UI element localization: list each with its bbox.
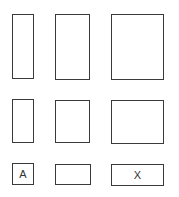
rect-label-a: A	[19, 169, 26, 180]
rect-row3-col3-x: X	[111, 164, 164, 186]
rect-row2-col1	[12, 99, 34, 143]
rect-row1-col2	[55, 14, 90, 80]
rect-row1-col3	[111, 14, 164, 80]
rect-row2-col3	[111, 100, 164, 144]
rect-row1-col1	[12, 14, 34, 79]
rect-row2-col2	[55, 100, 90, 143]
rect-label-x: X	[134, 170, 141, 181]
rect-row3-col2	[55, 164, 91, 185]
rect-row3-col1-a: A	[12, 163, 34, 185]
